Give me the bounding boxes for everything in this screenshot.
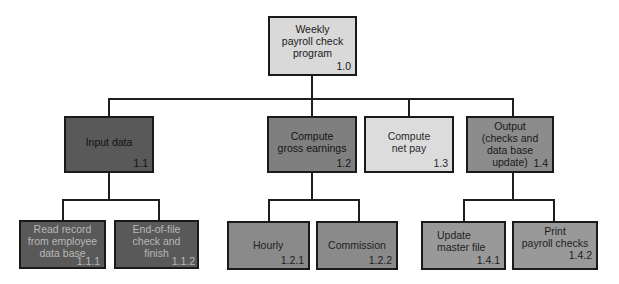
node-print-payroll-checks: Print payroll checks 1.4.2 [512, 221, 598, 270]
node-number: 1.4 [533, 157, 548, 169]
connector-to-1-4 [512, 98, 514, 116]
node-number: 1.1.1 [77, 255, 100, 267]
node-read-record: Read record from employee data base 1.1.… [19, 220, 106, 269]
connector-to-1-2 [311, 98, 313, 116]
node-number: 1.0 [336, 60, 351, 72]
node-number: 1.4.2 [569, 249, 592, 261]
node-end-of-file-check: End-of-file check and finish 1.1.2 [114, 220, 199, 269]
node-number: 1.1 [133, 157, 148, 169]
node-number: 1.2 [336, 157, 351, 169]
node-output: Output (checks and data base update) 1.4 [466, 116, 554, 173]
node-number: 1.2.1 [281, 254, 304, 266]
node-update-master-file: Update master file 1.4.1 [421, 221, 506, 270]
node-label: Print payroll checks [514, 225, 596, 249]
connector-1-4-bus [463, 199, 555, 201]
node-hourly: Hourly 1.2.1 [227, 221, 310, 270]
connector-1-4-down [512, 172, 514, 200]
connector-1-2-bus [268, 199, 360, 201]
connector-root-down [311, 75, 313, 100]
connector-to-1-1-2 [158, 199, 160, 220]
node-compute-gross-earnings: Compute gross earnings 1.2 [267, 116, 357, 173]
node-commission: Commission 1.2.2 [316, 221, 398, 270]
connector-to-1-4-1 [463, 199, 465, 221]
connector-1-2-down [311, 172, 313, 200]
node-weekly-payroll-program: Weekly payroll check program 1.0 [268, 16, 357, 76]
connector-to-1-1 [108, 98, 110, 116]
node-label: Input data [66, 136, 152, 148]
connector-to-1-4-2 [553, 199, 555, 221]
connector-to-1-3 [408, 98, 410, 116]
connector-to-1-2-2 [358, 199, 360, 221]
node-number: 1.1.2 [172, 255, 195, 267]
connector-1-1-bus [62, 199, 160, 201]
node-label: Compute net pay [366, 130, 452, 154]
node-label: Hourly [229, 239, 308, 251]
node-label: Compute gross earnings [269, 130, 355, 154]
connector-1-1-down [108, 172, 110, 200]
node-compute-net-pay: Compute net pay 1.3 [364, 116, 454, 173]
connector-to-1-2-1 [268, 199, 270, 221]
node-label: Read record from employee data base [21, 223, 104, 259]
node-label: End-of-file check and finish [116, 223, 197, 259]
node-number: 1.4.1 [477, 254, 500, 266]
node-number: 1.3 [433, 157, 448, 169]
node-label: Weekly payroll check program [270, 23, 355, 59]
node-label: Commission [318, 239, 396, 251]
node-input-data: Input data 1.1 [64, 116, 154, 173]
connector-to-1-1-1 [62, 199, 64, 220]
node-label: Update master file [423, 229, 504, 253]
node-number: 1.2.2 [369, 254, 392, 266]
